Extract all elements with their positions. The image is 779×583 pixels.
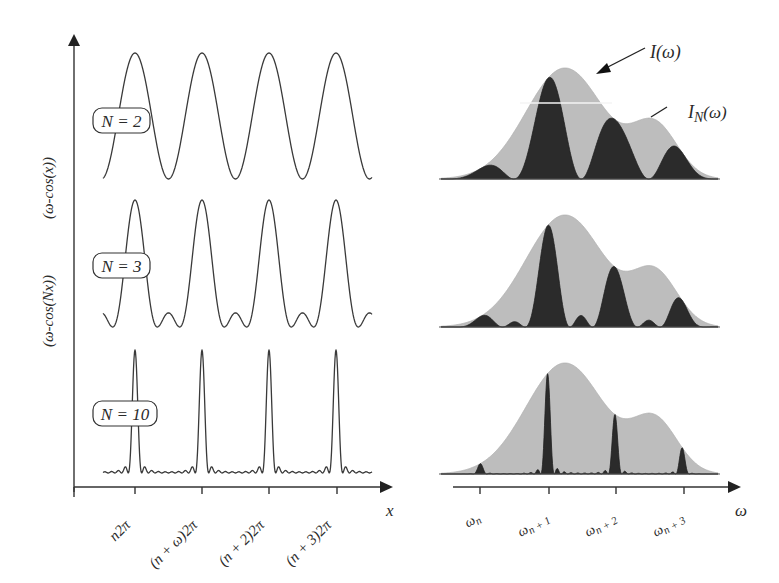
omega-axis-label: ω	[735, 501, 747, 520]
omega-tick-label-1: ωn + 1	[515, 510, 553, 542]
envelope-pointer-line	[604, 48, 645, 69]
y-axis-label-cos-nx: (ω-cos(Nx))	[40, 275, 57, 347]
diagram-canvas: (ω-cos(x)) (ω-cos(Nx)) N = 2 N = 3 N = 1…	[0, 0, 779, 583]
diagram: (ω-cos(x)) (ω-cos(Nx)) N = 2 N = 3 N = 1…	[0, 0, 779, 583]
x-axis-label: x	[385, 501, 394, 520]
omega-tick-label-3: ωn + 3	[650, 509, 688, 541]
envelope-pointer-arrow-icon	[596, 63, 611, 74]
envelope-area	[441, 363, 718, 474]
label-n3: N = 3	[93, 253, 150, 278]
spectrum-n3	[439, 215, 720, 327]
label-n10-text: N = 10	[100, 405, 150, 424]
label-n2: N = 2	[93, 108, 150, 133]
left-x-ticks	[74, 487, 337, 497]
label-n10: N = 10	[93, 401, 157, 426]
left-x-axis-arrow-icon	[380, 481, 393, 493]
omega-tick-sub-1: n + 1	[526, 514, 553, 536]
omega-tick-sub-2: n + 2	[593, 514, 620, 537]
x-tick-label-2: (n + 2)2π	[215, 516, 268, 569]
filtered-pointer-line	[651, 107, 667, 117]
right-x-axis-arrow-icon	[728, 481, 741, 493]
omega-tick-label-0: ωn	[462, 509, 484, 532]
right-x-ticks	[480, 487, 684, 494]
y-axis-label-cos-x: (ω-cos(x))	[40, 157, 57, 219]
label-n3-text: N = 3	[101, 257, 142, 276]
omega-tick-sub-3: n + 3	[661, 514, 688, 537]
envelope-label: I(ω)	[649, 42, 681, 63]
filtered-label: IN(ω)	[687, 102, 727, 125]
x-tick-label-0: n2π	[106, 516, 134, 544]
left-y-axis-arrow-icon	[68, 34, 80, 46]
spectrum-n10	[439, 363, 720, 474]
label-n2-text: N = 2	[101, 112, 142, 131]
left-panel: (ω-cos(x)) (ω-cos(Nx)) N = 2 N = 3 N = 1…	[40, 34, 394, 572]
right-panel: I(ω) IN(ω) ωn ωn + 1 ωn + 2 ωn + 3 ω	[439, 42, 747, 541]
filtered-label-tail: (ω)	[703, 103, 727, 122]
omega-tick-label-2: ωn + 2	[582, 509, 620, 541]
x-tick-label-1: (n + ω)2π	[146, 516, 201, 571]
spectrum-n2	[439, 68, 720, 179]
x-tick-label-3: (n + 3)2π	[282, 516, 335, 569]
filtered-label-sub: N	[693, 110, 704, 125]
